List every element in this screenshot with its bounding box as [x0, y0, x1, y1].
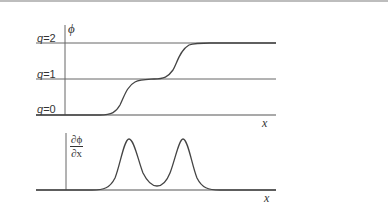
dx-denominator: ∂x	[71, 147, 82, 159]
x-axis-label-bottom: x	[264, 192, 269, 204]
level-eq: =0	[43, 103, 56, 115]
dphi-numerator: ∂ϕ	[70, 134, 83, 147]
level-eq: =1	[43, 68, 56, 80]
level-label-q0: q=0	[37, 104, 56, 115]
level-label-q2: q=2	[37, 33, 56, 44]
x-axis-label-top: x	[262, 117, 267, 129]
dphi-dx-axis-label: ∂ϕ ∂x	[70, 134, 83, 159]
level-eq: =2	[43, 32, 56, 44]
level-label-q1: q=1	[37, 69, 56, 80]
phi-axis-label: ϕ	[68, 22, 75, 35]
kink-diagram	[0, 0, 388, 208]
